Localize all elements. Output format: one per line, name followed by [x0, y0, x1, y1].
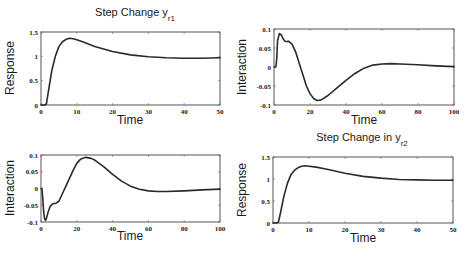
y-tick-label: 0.1	[29, 152, 38, 160]
x-axis-label: Time	[117, 229, 144, 243]
plot-interaction-bottom: 020406080100-0.1-0.0500.050.1 Time Inter…	[3, 152, 226, 244]
x-axis-label: Time	[350, 231, 377, 245]
y-axis-label: Response	[235, 163, 249, 217]
x-tick-label: 50	[217, 108, 225, 116]
y-axis-label: Interaction	[235, 39, 249, 95]
response-curve	[273, 166, 453, 223]
y-tick-label: 1.5	[261, 154, 270, 162]
figure: 0102030405000.511.5 Step Change yr1 Time…	[0, 0, 470, 256]
y-tick-label: 0.05	[26, 168, 39, 176]
x-tick-label: 10	[73, 108, 81, 116]
plot-frame	[41, 155, 220, 222]
y-tick-label: -0.1	[260, 102, 272, 110]
x-tick-label: 20	[307, 108, 315, 116]
x-tick-label: 100	[215, 225, 226, 233]
x-tick-label: 30	[378, 226, 386, 234]
y-tick-label: 0	[267, 220, 271, 228]
y-tick-label: 0.5	[29, 77, 38, 85]
plot-title: Step Change yr1	[95, 6, 175, 23]
x-tick-label: 0	[39, 108, 43, 116]
plot-step-change-yr1: 0102030405000.511.5 Step Change yr1 Time…	[3, 6, 224, 127]
x-axis-label: Time	[117, 113, 144, 127]
y-tick-label: 1	[267, 176, 271, 184]
x-axis-label: Time	[351, 113, 378, 127]
y-tick-label: 0	[35, 102, 39, 110]
plot-title: Step Change in yr2	[316, 131, 408, 148]
y-tick-label: 0.05	[259, 45, 272, 53]
x-tick-label: 30	[145, 108, 153, 116]
x-tick-label: 80	[415, 108, 423, 116]
x-tick-label: 40	[109, 225, 117, 233]
x-tick-label: 40	[343, 108, 351, 116]
x-tick-label: 0	[272, 108, 276, 116]
tick-labels: 0102030405000.511.5	[29, 29, 224, 117]
y-tick-label: 1.5	[29, 29, 38, 37]
y-axis-label: Interaction	[3, 160, 17, 216]
x-tick-label: 20	[73, 225, 81, 233]
x-tick-label: 0	[39, 225, 43, 233]
response-curve	[41, 38, 220, 105]
y-tick-label: 0.5	[261, 198, 270, 206]
x-tick-label: 80	[181, 225, 189, 233]
x-tick-label: 20	[342, 226, 350, 234]
y-axis-label: Response	[3, 41, 17, 95]
y-tick-label: -0.05	[23, 202, 38, 210]
y-tick-label: 0	[268, 64, 272, 72]
plot-frame	[41, 32, 220, 105]
x-tick-label: 0	[271, 226, 275, 234]
y-tick-label: -0.1	[27, 219, 39, 227]
x-tick-label: 100	[449, 108, 460, 116]
y-tick-label: 0	[35, 185, 39, 193]
x-tick-label: 50	[450, 226, 458, 234]
y-tick-label: 0.1	[262, 26, 271, 34]
tick-labels: 0102030405000.511.5	[261, 154, 457, 235]
plot-step-change-yr2: 0102030405000.511.5 Step Change in yr2 T…	[235, 131, 457, 245]
x-tick-label: 40	[414, 226, 422, 234]
y-tick-label: -0.05	[256, 83, 271, 91]
interaction-curve	[274, 34, 454, 101]
x-tick-label: 10	[306, 226, 314, 234]
interaction-curve	[41, 157, 220, 220]
x-tick-label: 40	[181, 108, 189, 116]
x-tick-label: 60	[145, 225, 153, 233]
tick-labels: 020406080100-0.1-0.0500.050.1	[23, 152, 225, 234]
x-tick-label: 60	[379, 108, 387, 116]
x-tick-label: 20	[109, 108, 117, 116]
y-tick-label: 1	[35, 53, 39, 61]
plot-interaction-top: 020406080100-0.1-0.0500.050.1 Time Inter…	[235, 26, 460, 128]
